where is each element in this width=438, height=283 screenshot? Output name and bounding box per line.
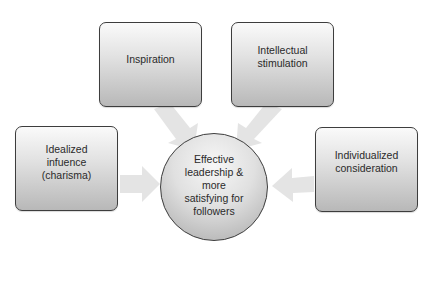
- node-inspiration: Inspiration: [99, 22, 202, 107]
- node-intellectual-stimulation-label: Intellectual stimulation: [257, 44, 307, 70]
- node-idealized-influence: Idealized infuence (charisma): [15, 126, 118, 211]
- center-node-effective-leadership: Effective leadership & more satisfying f…: [160, 133, 268, 241]
- arrow-individualized-to-center: [272, 168, 314, 202]
- node-individualized-consideration-label: Individualized consideration: [335, 149, 399, 175]
- node-inspiration-label: Inspiration: [126, 53, 174, 66]
- node-idealized-influence-label: Idealized infuence (charisma): [42, 143, 92, 182]
- diagram-canvas: Inspiration Intellectual stimulation Ide…: [0, 0, 438, 283]
- arrow-idealized-to-center: [120, 166, 160, 202]
- node-intellectual-stimulation: Intellectual stimulation: [231, 22, 334, 107]
- center-node-label: Effective leadership & more satisfying f…: [185, 153, 244, 218]
- node-individualized-consideration: Individualized consideration: [315, 127, 418, 212]
